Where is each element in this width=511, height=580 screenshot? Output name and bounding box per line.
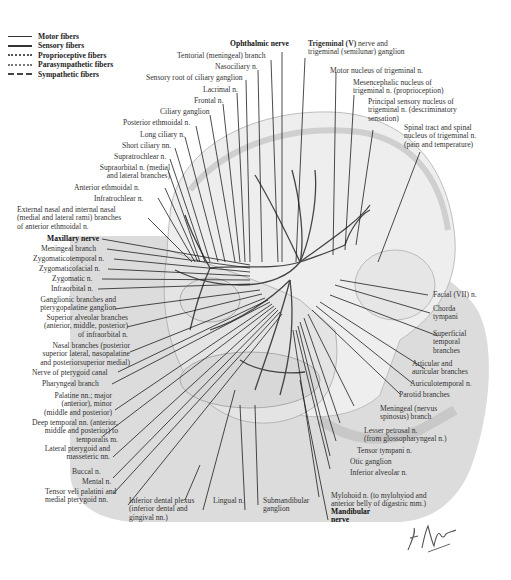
label-parotid-branches: Parotid branches <box>399 391 450 399</box>
label-tensor-tympani: Tensor tympani n. <box>357 447 412 455</box>
label-facial-nerve: Facial (VII) n. <box>433 291 477 299</box>
legend-sensory: Sensory fibers <box>8 41 113 50</box>
label-spinal-tract: Spinal tract and spinalnucleus of trigem… <box>404 124 476 149</box>
label-ganglionic-branches: Ganglionic branches andpterygopalatine g… <box>14 296 116 313</box>
legend-proprioceptive: Proprioceptive fibers <box>8 51 113 60</box>
label-otic-ganglion: Otic ganglion <box>350 458 392 466</box>
legend-sympathetic: Sympathetic fibers <box>8 70 113 79</box>
label-articular-auricular: Articular andauricular branches <box>412 360 468 377</box>
label-zygomaticofacial: Zygomaticofacial n. <box>39 265 100 273</box>
label-motor-nucleus: Motor nucleus of trigeminal n. <box>330 67 423 75</box>
label-lateral-pterygoid: Lateral pterygoid andmasseteric nn. <box>14 445 110 462</box>
label-mylohoid: Mylohoid n. (to mylohyiod andanterior be… <box>331 492 427 509</box>
legend-parasympathetic: Parasympathetic fibers <box>8 60 113 69</box>
label-superficial-temporal: Superficialtemporalbranches <box>433 330 466 355</box>
label-meningeal-spinosus: Meningeal (nervusspinosus) branch <box>380 405 437 422</box>
artist-signature: F. Netter M.D. <box>404 520 460 556</box>
label-auriculotemporal: Auriculotemporal n. <box>410 380 472 388</box>
trigeminal-nerve-diagram: Motor fibers Sensory fibers Propriocepti… <box>0 0 511 580</box>
label-lacrimal: Lacrimal n. <box>203 86 238 94</box>
label-maxillary-nerve: Maxillary nerve <box>47 235 99 243</box>
label-posterior-ethmoidal: Posterior ethmoidal n. <box>123 119 190 127</box>
label-submandibular-ganglion: Submandibularganglion <box>263 497 309 514</box>
label-mental: Mental n. <box>82 478 111 486</box>
label-nasociliary: Nasociliary n. <box>215 63 258 71</box>
label-principal-sensory-nucleus: Principal sensory nucleus oftrigeminal n… <box>368 98 457 123</box>
label-tensor-veli: Tensor veli palatini andmedial pterygoid… <box>45 488 116 505</box>
legend-motor: Motor fibers <box>8 32 113 41</box>
label-deep-temporal: Deep temporal nn. (anterior,middle and p… <box>14 419 118 444</box>
label-infraorbital: Infraorbital n. <box>51 285 93 293</box>
label-supratrochlear: Supratrochlear n. <box>114 153 166 161</box>
label-long-ciliary: Long ciliary n. <box>140 131 185 139</box>
label-superior-alveolar: Superior alveolar branches(anterior, mid… <box>14 314 128 339</box>
label-zygomaticotemporal: Zygomaticotemporal n. <box>33 255 104 263</box>
label-sensory-root-ciliary: Sensory root of ciliary ganglion <box>146 74 243 82</box>
fiber-legend: Motor fibers Sensory fibers Propriocepti… <box>8 32 113 79</box>
label-pterygoid-canal: Nerve of pterygoid canal <box>32 369 108 377</box>
label-ophthalmic-nerve: Ophthalmic nerve <box>230 40 289 48</box>
label-frontal: Frontal n. <box>194 97 224 105</box>
label-inferior-dental-plexus: Inferior dental plexus(inferior dental a… <box>129 497 194 522</box>
label-zygomatic: Zygomatic n. <box>52 275 93 283</box>
label-short-ciliary: Short ciliary nn. <box>122 142 171 150</box>
label-mandibular-nerve: Mandibularnerve <box>331 508 370 525</box>
label-lesser-petrosal: Lesser petrosal n.(from glossopharyngeal… <box>364 427 446 444</box>
label-buccal: Buccal n. <box>72 468 101 476</box>
label-tentorial-branch: Tentorial (meningeal) branch <box>177 52 265 60</box>
label-chorda-tympani: Chordatympani <box>433 305 458 322</box>
label-meningeal-branch: Meningeal branch <box>41 245 96 253</box>
label-pharyngeal-branch: Pharyngeal branch <box>42 380 99 388</box>
label-infratrochlear: Infratrochlear n. <box>94 195 143 203</box>
label-inferior-alveolar: Inferior alveolar n. <box>350 469 407 477</box>
label-nasal-branches: Nasal branches (posteriorsuperior latera… <box>14 342 130 367</box>
label-lingual: Lingual n. <box>213 497 244 505</box>
label-supraorbital: Supraorbital n. (medialand lateral branc… <box>84 164 170 181</box>
label-mesencephalic-nucleus: Mesencephalic nucleus oftrigeminal n. (p… <box>353 79 443 96</box>
label-palatine: Palatine nn.; major(anterior), minor(mid… <box>14 392 112 417</box>
label-ciliary-ganglion: Ciliary ganglion <box>160 108 210 116</box>
label-external-nasal: External nasal and internal nasal(medial… <box>17 206 121 231</box>
label-trigeminal: Trigeminal (V) nerve andtrigeminal (semi… <box>308 40 405 57</box>
label-anterior-ethmoidal: Anterior ethmoidal n. <box>74 184 140 192</box>
